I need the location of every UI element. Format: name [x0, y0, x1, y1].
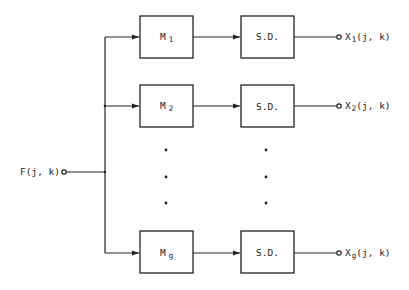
output-label-2: X2(j, k)	[345, 100, 391, 113]
output-terminal-icon	[337, 104, 341, 108]
filter-box-mg	[140, 231, 193, 273]
output-label-g: Xg(j, k)	[345, 247, 391, 260]
filter-box-m2	[140, 85, 193, 127]
input-terminal-icon	[62, 170, 66, 174]
branch-g: Mg S.D. Xg(j, k)	[105, 231, 391, 273]
branch-2: M2 S.D. X2(j, k)	[105, 85, 391, 127]
output-label-1: X1(j, k)	[345, 31, 391, 44]
output-terminal-icon	[337, 35, 341, 39]
filter-box-m1	[140, 16, 193, 58]
branch-1: M1 S.D. X1(j, k)	[105, 16, 391, 58]
detector-label-2: S.D.	[256, 101, 279, 112]
block-diagram: F(j, k) M1 S.D. X1(j, k) M2 S.D. X2(j, k…	[0, 0, 409, 290]
detector-label-1: S.D.	[256, 31, 279, 42]
output-terminal-icon	[337, 251, 341, 255]
input-signal: F(j, k)	[20, 166, 106, 177]
input-label: F(j, k)	[20, 166, 60, 177]
vertical-ellipsis	[165, 149, 268, 205]
detector-label-g: S.D.	[256, 247, 279, 258]
